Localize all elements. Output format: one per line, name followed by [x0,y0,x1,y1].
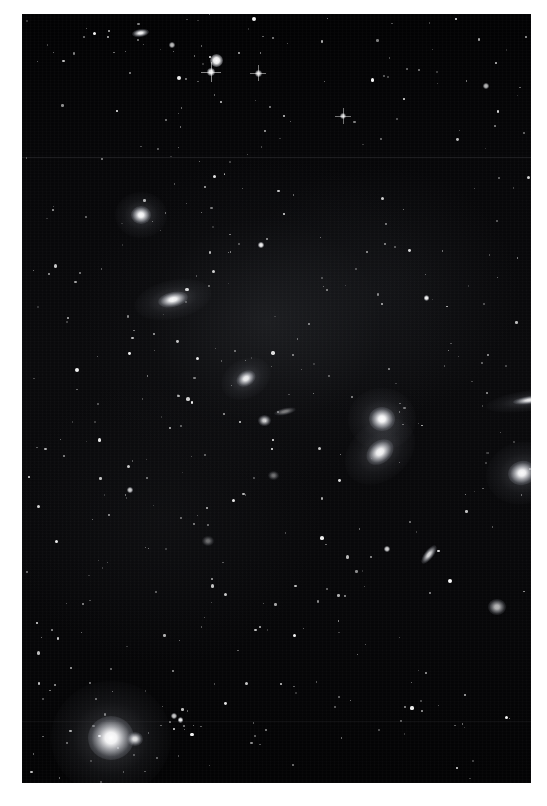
star-point [371,458,372,459]
star-point [231,385,232,386]
star-point [253,477,255,479]
star-point [294,585,297,588]
star-point [93,32,97,36]
star-point [197,20,199,22]
star-point [224,174,225,175]
star-point [89,600,91,602]
star-point [94,421,96,423]
star-point [185,288,189,292]
galaxy-elliptical [131,206,151,224]
star-point [362,144,363,145]
star-point [213,175,216,178]
star-point [163,314,164,315]
star-point [489,254,491,256]
star-point [450,343,451,344]
star-point [107,562,108,563]
diffraction-spike [258,65,259,82]
star-point [108,514,111,517]
star-point [98,560,100,562]
star-point [325,544,327,546]
star-point [353,121,355,123]
star-point [272,37,275,40]
star-point [193,377,195,379]
star-point [232,499,235,502]
star-point [190,733,194,737]
star-point [186,397,190,401]
star-point [297,338,298,339]
star-point [269,106,272,109]
star-point [36,622,38,624]
star-point [57,637,60,640]
star-point [140,146,142,148]
star-point [86,441,87,442]
star-point [127,315,129,317]
star-point [46,218,47,219]
star-point [242,188,243,189]
star-point [454,725,456,727]
star-point [30,771,32,773]
star-point [107,36,109,38]
page-canvas [0,0,547,806]
star-point [113,52,115,54]
star-point [92,519,93,520]
star-point [429,22,431,24]
star-point [122,244,124,246]
star-point [193,725,194,726]
star-point [292,354,294,356]
star-point [403,407,406,410]
star-point [505,716,509,720]
galaxy-elliptical [505,458,531,488]
star-point [404,733,405,734]
star-point [238,243,240,245]
star-point [378,729,380,731]
star-point [230,251,231,252]
star-point [483,303,485,305]
galaxy-dwarf [258,415,271,426]
star-point [529,468,531,470]
star-point [410,706,413,709]
diffraction-spike [335,116,350,117]
astronomy-plate [22,14,531,783]
star-point [320,536,324,540]
star-point [178,717,183,722]
star-point [277,190,280,193]
star-point [60,439,61,440]
galaxy-lenticular [361,434,398,470]
star-point [186,203,187,204]
star-point [163,634,165,636]
star-point [465,510,467,512]
star-point [255,70,262,77]
star-point [290,121,291,122]
galaxy-halo [332,405,429,499]
star-point [155,591,157,593]
star-point [131,337,133,339]
star-point [242,493,244,495]
star-point [38,682,41,685]
star-point [497,110,500,113]
star-point [432,49,434,51]
star-point [285,532,286,533]
star-point [212,270,215,273]
star-point [171,713,177,719]
star-point [494,125,495,126]
star-point [162,706,163,707]
galaxy-halo [348,388,416,450]
star-point [293,194,294,195]
star-point [54,264,57,267]
star-point [37,651,40,654]
star-point [207,524,208,525]
star-point [271,351,274,354]
star-point [387,76,388,77]
galaxy-inclined-spiral [419,543,440,566]
star-point [323,286,324,287]
star-point [234,350,236,352]
star-point [260,52,261,53]
star-point [101,268,103,270]
star-point [49,690,50,691]
star-point [199,161,200,162]
star-point [261,146,263,148]
star-point [274,603,276,605]
star-point [474,491,475,492]
star-point [83,36,85,38]
star-point [86,28,88,30]
